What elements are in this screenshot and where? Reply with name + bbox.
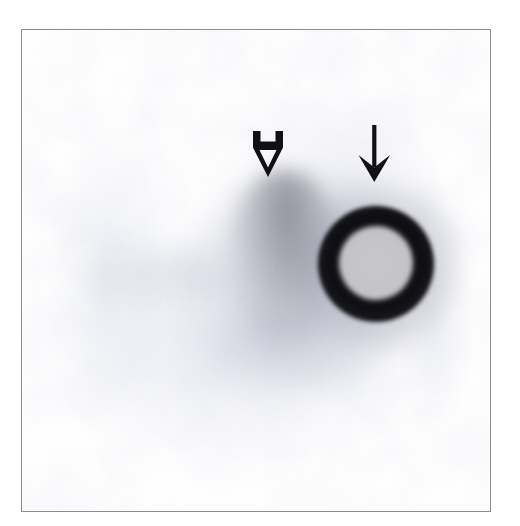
plate-frame bbox=[21, 29, 491, 512]
smear-tail-left bbox=[77, 245, 247, 305]
figure-root bbox=[0, 0, 520, 526]
solid-arrow-icon bbox=[355, 125, 395, 185]
open-arrow-icon bbox=[247, 131, 289, 181]
